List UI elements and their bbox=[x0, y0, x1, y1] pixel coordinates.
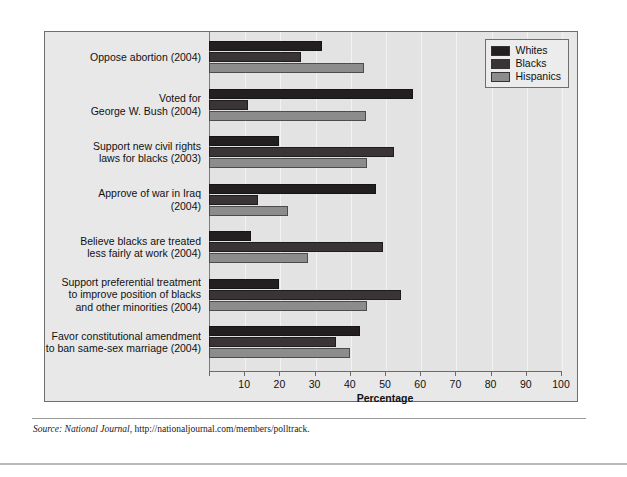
legend-swatch-whites bbox=[491, 46, 510, 56]
legend-label-whites: Whites bbox=[515, 44, 547, 57]
tick-80 bbox=[491, 371, 492, 376]
legend-item-whites: Whites bbox=[491, 44, 561, 57]
bar-hispanics bbox=[209, 348, 350, 358]
bar-whites bbox=[209, 326, 360, 336]
tick-label-50: 50 bbox=[370, 378, 400, 390]
bar-blacks bbox=[209, 147, 394, 157]
tick-90 bbox=[526, 371, 527, 376]
bar-blacks bbox=[209, 290, 401, 300]
bar-whites bbox=[209, 136, 279, 146]
tick-0 bbox=[209, 371, 210, 376]
x-axis: 102030405060708090100 Percentage bbox=[209, 371, 561, 403]
tick-label-20: 20 bbox=[264, 378, 294, 390]
category-label: Believe blacks are treated less fairly a… bbox=[0, 235, 201, 260]
tick-40 bbox=[350, 371, 351, 376]
bar-whites bbox=[209, 89, 413, 99]
bar-group bbox=[209, 279, 561, 313]
bar-whites bbox=[209, 279, 279, 289]
legend-swatch-blacks bbox=[491, 59, 510, 69]
tick-100 bbox=[561, 371, 562, 376]
bar-whites bbox=[209, 231, 251, 241]
source-divider-top bbox=[32, 418, 586, 419]
bar-blacks bbox=[209, 242, 383, 252]
source-prefix: Source: bbox=[33, 424, 62, 434]
tick-70 bbox=[455, 371, 456, 376]
chart-figure: Oppose abortion (2004)Voted for George W… bbox=[44, 31, 578, 402]
tick-label-60: 60 bbox=[405, 378, 435, 390]
category-label: Approve of war in Iraq (2004) bbox=[0, 187, 201, 212]
x-axis-title: Percentage bbox=[209, 392, 561, 404]
legend-label-blacks: Blacks bbox=[515, 57, 546, 70]
bar-group bbox=[209, 326, 561, 360]
tick-50 bbox=[385, 371, 386, 376]
tick-label-80: 80 bbox=[476, 378, 506, 390]
page-divider-bottom bbox=[0, 463, 627, 465]
bar-hispanics bbox=[209, 206, 288, 216]
tick-label-40: 40 bbox=[335, 378, 365, 390]
bar-group bbox=[209, 89, 561, 123]
category-label: Support new civil rights laws for blacks… bbox=[0, 140, 201, 165]
bar-whites bbox=[209, 184, 376, 194]
tick-label-30: 30 bbox=[300, 378, 330, 390]
source-publication: National Journal bbox=[65, 424, 130, 434]
category-label: Voted for George W. Bush (2004) bbox=[0, 92, 201, 117]
bar-hispanics bbox=[209, 158, 367, 168]
figure-page: Oppose abortion (2004)Voted for George W… bbox=[0, 0, 627, 477]
tick-label-100: 100 bbox=[546, 378, 576, 390]
legend-item-hispanics: Hispanics bbox=[491, 70, 561, 83]
tick-label-10: 10 bbox=[229, 378, 259, 390]
tick-label-70: 70 bbox=[440, 378, 470, 390]
chart-legend: Whites Blacks Hispanics bbox=[485, 39, 569, 88]
bar-hispanics bbox=[209, 301, 367, 311]
legend-label-hispanics: Hispanics bbox=[515, 70, 561, 83]
tick-10 bbox=[244, 371, 245, 376]
tick-30 bbox=[315, 371, 316, 376]
tick-20 bbox=[279, 371, 280, 376]
legend-item-blacks: Blacks bbox=[491, 57, 561, 70]
bar-hispanics bbox=[209, 111, 366, 121]
tick-60 bbox=[420, 371, 421, 376]
bar-blacks bbox=[209, 52, 301, 62]
source-note: Source: National Journal, http://nationa… bbox=[33, 424, 310, 434]
bar-group bbox=[209, 136, 561, 170]
bar-blacks bbox=[209, 100, 248, 110]
category-label: Oppose abortion (2004) bbox=[0, 51, 201, 64]
bar-group bbox=[209, 184, 561, 218]
bar-blacks bbox=[209, 195, 258, 205]
category-label: Support preferential treatment to improv… bbox=[0, 276, 201, 314]
legend-swatch-hispanics bbox=[491, 72, 510, 82]
bar-group bbox=[209, 231, 561, 265]
bar-hispanics bbox=[209, 253, 308, 263]
bar-hispanics bbox=[209, 63, 364, 73]
bar-whites bbox=[209, 41, 322, 51]
category-label: Favor constitutional amendment to ban sa… bbox=[0, 330, 201, 355]
source-url: , http://nationaljournal.com/members/pol… bbox=[130, 424, 310, 434]
bar-blacks bbox=[209, 337, 336, 347]
tick-label-90: 90 bbox=[511, 378, 541, 390]
